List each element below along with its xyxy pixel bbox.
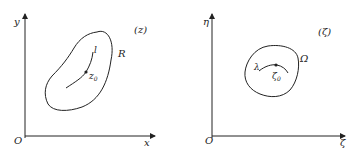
curve-l bbox=[66, 52, 93, 88]
x-axis-label: x bbox=[144, 137, 150, 148]
conformal-mapping-diagram: y x O (z) R l z0 η ζ O (ζ) Ω λ ζ0 bbox=[0, 0, 359, 158]
y-axis-label: y bbox=[13, 16, 20, 27]
zeta-axis-label: ζ bbox=[340, 137, 346, 148]
point-label-z0: z0 bbox=[88, 71, 98, 82]
curve-label-lambda: λ bbox=[253, 62, 260, 72]
point-zeta0 bbox=[274, 63, 277, 66]
origin-label: O bbox=[14, 135, 22, 146]
eta-axis-label: η bbox=[203, 16, 209, 27]
plane-label-z: (z) bbox=[134, 24, 147, 35]
point-label-zeta0: ζ0 bbox=[272, 71, 281, 82]
z-plane: y x O (z) R l z0 bbox=[13, 14, 155, 148]
region-r-boundary bbox=[45, 31, 112, 110]
zeta-plane: η ζ O (ζ) Ω λ ζ0 bbox=[203, 14, 346, 148]
region-label-r: R bbox=[117, 48, 126, 59]
curve-label-l: l bbox=[94, 45, 97, 55]
origin-label-right: O bbox=[205, 135, 213, 146]
plane-label-zeta: (ζ) bbox=[318, 26, 331, 37]
point-z0 bbox=[84, 70, 87, 73]
region-label-omega: Ω bbox=[299, 53, 308, 64]
